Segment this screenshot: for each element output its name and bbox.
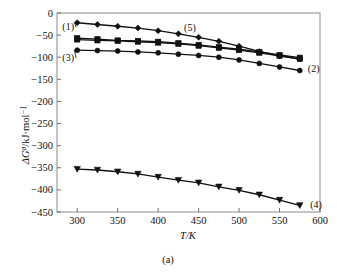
- data-point-diamond: [216, 38, 222, 44]
- data-point-square: [277, 53, 282, 58]
- x-tick-label: 450: [191, 215, 207, 226]
- data-point-circle: [115, 49, 120, 54]
- curve-label-2: (2): [308, 63, 320, 75]
- series-group: [74, 20, 303, 209]
- data-point-triangle-down: [297, 203, 303, 209]
- y-tick-label: −300: [31, 140, 53, 151]
- data-point-diamond: [115, 23, 121, 29]
- curve-labels-group: (1)(5)(2)(3)(4): [62, 21, 322, 212]
- y-axis-title: ΔGø/kJ·mol−1: [19, 106, 31, 165]
- data-point-circle: [95, 48, 100, 53]
- x-tick-label: 600: [312, 215, 328, 226]
- data-point-circle: [75, 48, 80, 53]
- curve-label-4: (4): [310, 199, 322, 211]
- data-point-square: [75, 37, 80, 42]
- svg-text:ΔGø/kJ·mol−1: ΔGø/kJ·mol−1: [19, 106, 31, 165]
- curve-label-5: (5): [184, 22, 196, 34]
- y-tick-label: −400: [31, 184, 53, 195]
- data-point-circle: [257, 61, 262, 66]
- figure-container: 3003504004505005506000−50−100−150−200−25…: [0, 0, 337, 277]
- series-3: [75, 48, 303, 73]
- data-point-diamond: [175, 31, 181, 37]
- series-line: [77, 40, 300, 59]
- x-tick-label: 300: [69, 215, 85, 226]
- data-point-diamond: [94, 21, 100, 27]
- y-tick-label: −200: [31, 96, 53, 107]
- curve-label-1: (1): [62, 21, 74, 33]
- data-point-circle: [156, 50, 161, 55]
- y-axis-unit: /kJ·mol: [20, 115, 31, 147]
- y-tick-label: 0: [48, 8, 53, 19]
- data-point-diamond: [196, 34, 202, 40]
- y-tick-label: −100: [31, 52, 53, 63]
- series-5: [75, 36, 303, 61]
- x-tick-label: 550: [272, 215, 288, 226]
- y-tick-label: −150: [31, 74, 53, 85]
- data-point-square: [95, 38, 100, 43]
- data-point-circle: [176, 52, 181, 57]
- data-point-diamond: [135, 25, 141, 31]
- x-tick-label: 350: [110, 215, 126, 226]
- y-tick-label: −50: [37, 30, 53, 41]
- y-axis-delta: Δ: [20, 158, 31, 165]
- data-point-square: [216, 45, 221, 50]
- data-point-circle: [196, 53, 201, 58]
- data-point-square: [135, 39, 140, 44]
- data-point-circle: [277, 64, 282, 69]
- data-point-square: [297, 56, 302, 61]
- series-2: [75, 37, 303, 62]
- data-point-square: [236, 48, 241, 53]
- x-tick-label: 400: [150, 215, 166, 226]
- y-tick-label: −450: [31, 207, 53, 218]
- data-point-square: [176, 41, 181, 46]
- series-4: [74, 166, 303, 208]
- chart-canvas: 3003504004505005506000−50−100−150−200−25…: [0, 0, 337, 277]
- data-point-diamond: [155, 28, 161, 34]
- series-line: [77, 169, 300, 205]
- x-tick-label: 500: [231, 215, 247, 226]
- y-tick-label: −350: [31, 162, 53, 173]
- y-axis-exponent: −1: [19, 106, 28, 115]
- data-point-square: [196, 43, 201, 48]
- x-axis-title-text: T/K: [180, 230, 197, 241]
- data-point-circle: [216, 55, 221, 60]
- figure-caption: (a): [162, 254, 174, 266]
- figure-caption-text: (a): [162, 254, 174, 266]
- data-point-square: [115, 38, 120, 43]
- data-point-square: [257, 50, 262, 55]
- data-point-circle: [297, 68, 302, 73]
- data-point-square: [156, 40, 161, 45]
- curve-label-3: (3): [62, 52, 74, 64]
- data-point-circle: [135, 49, 140, 54]
- y-tick-label: −250: [31, 118, 53, 129]
- x-axis-title: T/K: [180, 230, 197, 241]
- data-point-circle: [237, 57, 242, 62]
